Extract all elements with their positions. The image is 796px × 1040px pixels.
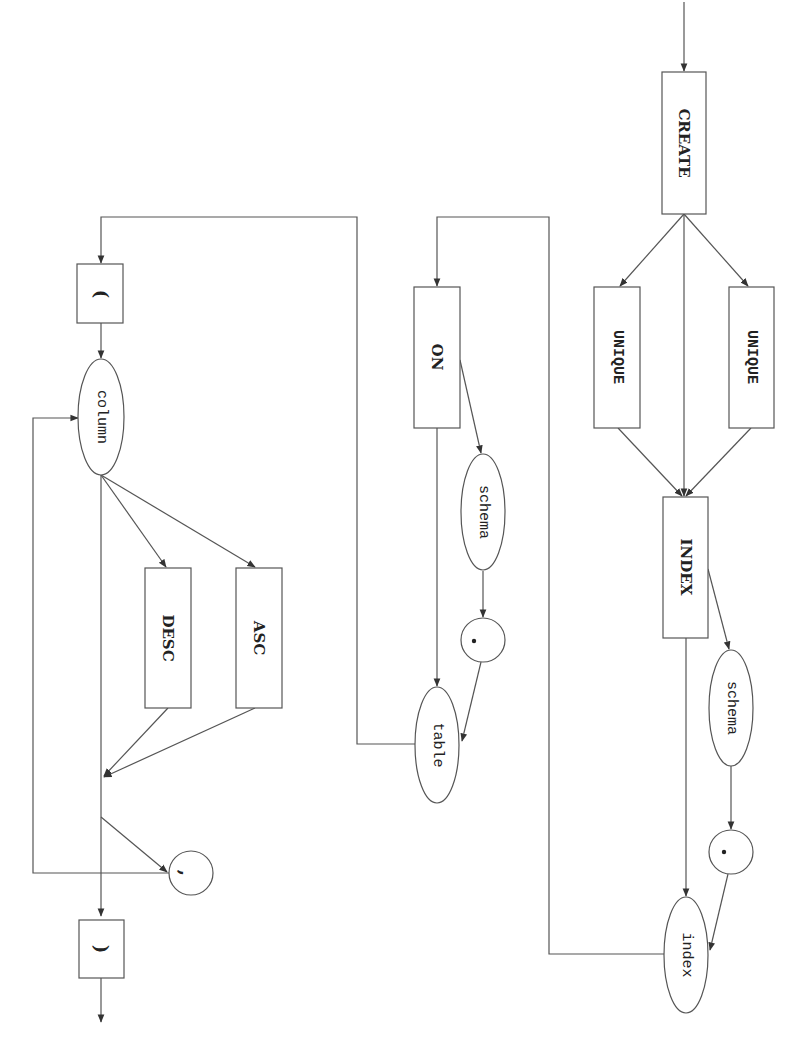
node-desc-label: DESC [159, 614, 177, 661]
node-comma[interactable]: , [169, 851, 213, 895]
edge-column-desc [101, 475, 166, 567]
edge-dot-indexname [710, 874, 728, 950]
node-table[interactable]: table [415, 687, 459, 803]
node-table-label: table [429, 722, 446, 767]
node-column-label: column [93, 390, 110, 444]
node-create[interactable]: CREATE [662, 72, 706, 214]
node-asc[interactable]: ASC [236, 568, 282, 708]
node-schema-table[interactable]: schema [461, 454, 505, 570]
node-on-label: ON [428, 344, 446, 371]
edge-index-schema [708, 569, 729, 649]
edge-unique-right-index [686, 428, 751, 496]
node-unique-left-label: UNIQUE [609, 330, 626, 384]
edge-on-schema [460, 360, 481, 453]
node-schema-table-label: schema [475, 485, 492, 539]
edge-column-asc [101, 475, 255, 567]
node-dot-table[interactable] [461, 618, 505, 662]
node-dot-index[interactable] [709, 830, 753, 874]
dot-glyph-icon [722, 850, 726, 854]
node-schema-index-label: schema [723, 681, 740, 735]
node-unique-left[interactable]: UNIQUE [594, 287, 640, 428]
node-create-label: CREATE [675, 108, 693, 177]
node-index-keyword-label: INDEX [677, 539, 695, 596]
node-open-paren-label: ( [91, 290, 112, 299]
node-column[interactable]: column [78, 359, 124, 475]
node-close-paren-label: ) [91, 945, 112, 954]
node-close-paren[interactable]: ) [79, 920, 124, 978]
edge-asc-merge [104, 708, 255, 777]
node-desc[interactable]: DESC [145, 568, 191, 708]
edge-dot-table [462, 662, 481, 741]
edges [33, 2, 751, 1022]
dot-glyph-icon [472, 639, 476, 643]
create-index-syntax-diagram: CREATE UNIQUE UNIQUE INDEX schema index … [0, 0, 796, 1040]
edge-unique-left-index [618, 428, 682, 496]
edge-desc-merge [104, 708, 168, 776]
node-index-name-label: index [678, 932, 695, 977]
edge-create-unique-right [684, 214, 748, 286]
node-unique-right-label: UNIQUE [743, 330, 760, 384]
node-unique-right[interactable]: UNIQUE [729, 287, 774, 428]
node-open-paren[interactable]: ( [77, 264, 123, 323]
edge-merge-comma [101, 817, 167, 872]
edge-create-unique-left [620, 214, 684, 286]
node-asc-label: ASC [250, 620, 268, 655]
node-comma-label: , [176, 870, 197, 876]
node-on[interactable]: ON [414, 287, 460, 428]
node-index-keyword[interactable]: INDEX [663, 497, 708, 638]
node-schema-index[interactable]: schema [709, 650, 753, 766]
node-index-name[interactable]: index [664, 897, 708, 1013]
